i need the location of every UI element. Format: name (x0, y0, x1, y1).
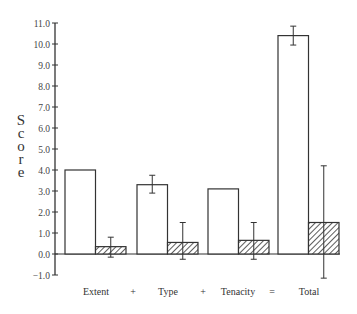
x-label-extent: Extent (83, 286, 109, 297)
y-tick-label: 9.0 (38, 61, 50, 71)
bar-chart: 11.010.09.08.07.06.05.04.03.02.01.00.0−1… (0, 0, 357, 314)
open-bar-extent (65, 170, 96, 254)
y-tick-label: 0.0 (38, 250, 50, 260)
x-label-tenacity: Tenacity (221, 286, 255, 297)
x-separator: + (130, 286, 136, 297)
y-tick-label: 2.0 (38, 208, 50, 218)
y-tick-label: 3.0 (38, 187, 50, 197)
open-bar-tenacity (208, 189, 239, 254)
y-tick-label: 6.0 (38, 124, 50, 134)
x-axis-labels: ExtentTypeTenacityTotal++= (83, 286, 319, 297)
y-tick-label: 7.0 (38, 103, 50, 113)
x-label-type: Type (158, 286, 178, 297)
y-tick-label: 4.0 (38, 166, 50, 176)
y-tick-label: −1.0 (33, 271, 50, 281)
y-tick-label: 1.0 (38, 229, 50, 239)
x-separator: + (200, 286, 206, 297)
x-separator: = (269, 286, 275, 297)
y-tick-label: 5.0 (38, 145, 50, 155)
y-tick-label: 8.0 (38, 82, 50, 92)
open-bar-type (137, 185, 168, 254)
y-tick-label: 11.0 (34, 19, 51, 29)
open-bar-total (278, 36, 309, 254)
x-label-total: Total (299, 286, 320, 297)
bars (65, 26, 339, 278)
y-tick-label: 10.0 (33, 40, 50, 50)
